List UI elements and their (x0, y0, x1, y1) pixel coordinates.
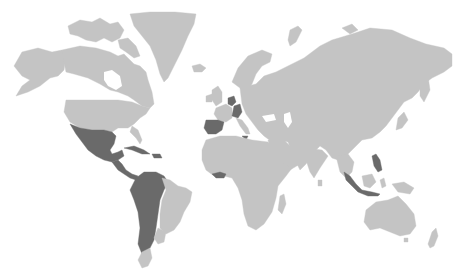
region-sri-lanka (318, 180, 322, 186)
world-map (0, 0, 453, 272)
region-tasmania (404, 238, 408, 242)
region-hispaniola[interactable] (152, 154, 162, 158)
